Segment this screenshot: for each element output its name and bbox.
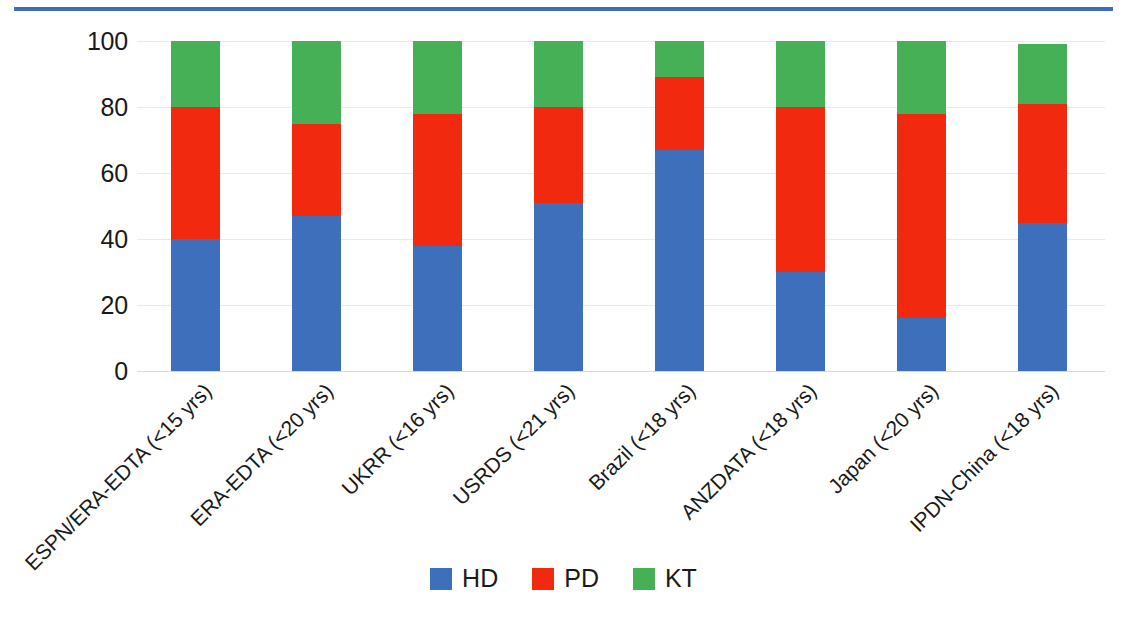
bar-segment-kt[interactable] <box>776 41 825 107</box>
y-tick-label: 20 <box>68 293 128 318</box>
y-tick-label: 0 <box>68 359 128 384</box>
y-tick-label: 80 <box>68 95 128 120</box>
legend-item-pd[interactable]: PD <box>532 566 599 591</box>
y-tick-label: 40 <box>68 227 128 252</box>
bar-segment-hd[interactable] <box>534 203 583 371</box>
bar-segment-pd[interactable] <box>292 124 341 216</box>
legend-label: KT <box>665 566 697 591</box>
bar-segment-kt[interactable] <box>171 41 220 107</box>
legend-swatch-icon <box>430 568 452 590</box>
legend-swatch-icon <box>532 568 554 590</box>
x-axis-tick-label: ANZDATA (<18 yrs) <box>676 379 821 524</box>
bar-segment-pd[interactable] <box>897 114 946 319</box>
bar-segment-pd[interactable] <box>534 107 583 203</box>
bar-segment-kt[interactable] <box>897 41 946 114</box>
x-axis-labels: ESPN/ERA-EDTA (<15 yrs)ERA-EDTA (<20 yrs… <box>137 371 1105 541</box>
x-axis-tick-label: USRDS (<21 yrs) <box>448 379 579 510</box>
gridline-40 <box>137 239 1105 240</box>
bar-segment-pd[interactable] <box>776 107 825 272</box>
bar-segment-kt[interactable] <box>292 41 341 124</box>
x-axis-tick-label: Japan (<20 yrs) <box>823 379 943 499</box>
bar-segment-hd[interactable] <box>897 318 946 371</box>
bar-group[interactable] <box>534 41 583 371</box>
bar-segment-hd[interactable] <box>171 239 220 371</box>
bar-segment-hd[interactable] <box>292 216 341 371</box>
bar-group[interactable] <box>171 41 220 371</box>
legend-label: PD <box>564 566 599 591</box>
bar-group[interactable] <box>655 41 704 371</box>
bar-segment-pd[interactable] <box>171 107 220 239</box>
bar-segment-hd[interactable] <box>776 272 825 371</box>
legend-swatch-icon <box>633 568 655 590</box>
bar-segment-pd[interactable] <box>413 114 462 246</box>
bar-group[interactable] <box>292 41 341 371</box>
y-tick-label: 60 <box>68 161 128 186</box>
chart-legend: HDPDKT <box>0 566 1127 591</box>
gridline-80 <box>137 107 1105 108</box>
x-axis-tick-label: Brazil (<18 yrs) <box>584 379 700 495</box>
bar-segment-kt[interactable] <box>655 41 704 77</box>
chart-figure: 020406080100 ESPN/ERA-EDTA (<15 yrs)ERA-… <box>0 0 1127 625</box>
bar-segment-kt[interactable] <box>1018 44 1067 103</box>
top-divider-rule <box>14 7 1113 11</box>
gridline-60 <box>137 173 1105 174</box>
bar-segment-pd[interactable] <box>1018 104 1067 223</box>
gridline-100 <box>137 41 1105 42</box>
plot-area <box>137 41 1105 371</box>
y-axis: 020406080100 <box>58 41 128 371</box>
legend-item-kt[interactable]: KT <box>633 566 697 591</box>
bar-segment-pd[interactable] <box>655 77 704 150</box>
bar-group[interactable] <box>413 41 462 371</box>
bar-segment-hd[interactable] <box>1018 223 1067 372</box>
gridline-20 <box>137 305 1105 306</box>
bar-segment-kt[interactable] <box>413 41 462 114</box>
y-tick-label: 100 <box>68 29 128 54</box>
x-axis-tick-label: ESPN/ERA-EDTA (<15 yrs) <box>20 379 216 575</box>
legend-label: HD <box>462 566 498 591</box>
bar-group[interactable] <box>897 41 946 371</box>
legend-item-hd[interactable]: HD <box>430 566 498 591</box>
bar-group[interactable] <box>1018 44 1067 371</box>
bar-segment-kt[interactable] <box>534 41 583 107</box>
bar-segment-hd[interactable] <box>655 150 704 371</box>
x-axis-tick-label: UKRR (<16 yrs) <box>337 379 458 500</box>
bar-segment-hd[interactable] <box>413 246 462 371</box>
bar-group[interactable] <box>776 41 825 371</box>
